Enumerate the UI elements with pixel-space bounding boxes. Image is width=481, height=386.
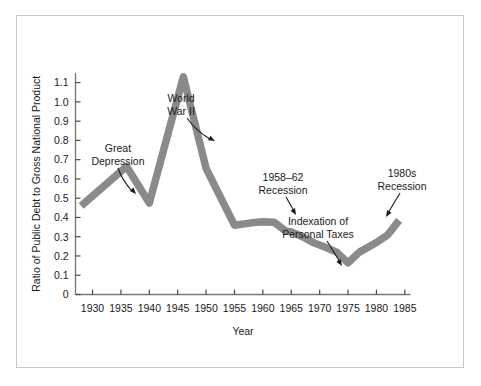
x-axis-tick-label: 1985 — [393, 302, 417, 314]
annotation-label: 1958–62Recession — [258, 171, 307, 196]
annotation-label: Indexation ofPersonal Taxes — [282, 215, 354, 240]
x-axis-title: Year — [232, 325, 254, 337]
annotation-label: GreatDepression — [91, 142, 144, 167]
x-axis-tick-label: 1980 — [365, 302, 389, 314]
annotation-label: 1980sRecession — [377, 167, 426, 192]
y-axis-tick-label: 0.4 — [54, 211, 69, 223]
x-axis-tick-label: 1965 — [280, 302, 304, 314]
x-axis-tick-label: 1940 — [138, 302, 162, 314]
y-axis-title: Ratio of Public Debt to Gross National P… — [30, 76, 42, 292]
chart-figure: 00.10.20.30.40.50.60.70.80.91.01.1193019… — [0, 0, 481, 386]
y-axis-tick-label: 0.3 — [54, 231, 69, 243]
x-axis-tick-label: 1945 — [166, 302, 190, 314]
annotation-recession-1980s: 1980sRecession — [377, 167, 426, 217]
y-axis-tick-label: 0 — [63, 288, 69, 300]
y-axis-tick-label: 0.8 — [54, 134, 69, 146]
x-axis-tick-label: 1955 — [223, 302, 247, 314]
annotation-leader-line — [388, 193, 400, 213]
y-axis-tick-label: 1.0 — [54, 96, 69, 108]
annotation-recession-1958-62: 1958–62Recession — [258, 171, 307, 215]
y-axis-tick-label: 0.7 — [54, 153, 69, 165]
x-axis-tick-label: 1960 — [251, 302, 275, 314]
x-axis-tick-label: 1970 — [308, 302, 332, 314]
y-axis-tick-label: 0.2 — [54, 250, 69, 262]
y-axis-tick-label: 0.6 — [54, 173, 69, 185]
x-axis-tick-label: 1935 — [109, 302, 133, 314]
annotation-arrowhead — [386, 210, 392, 217]
annotation-arrowhead — [208, 136, 215, 141]
x-axis-tick-label: 1950 — [194, 302, 218, 314]
y-axis-tick-label: 0.1 — [54, 269, 69, 281]
y-axis-tick-label: 0.5 — [54, 192, 69, 204]
y-axis-tick-label: 1.1 — [54, 76, 69, 88]
annotation-label: WorldWar II — [167, 92, 195, 117]
annotation-leader-line — [286, 197, 294, 211]
x-axis-tick-label: 1930 — [81, 302, 105, 314]
annotation-arrowhead — [130, 187, 136, 194]
annotation-arrowhead — [291, 208, 297, 215]
chart-plot-area: 00.10.20.30.40.50.60.70.80.91.01.1193019… — [0, 0, 481, 386]
x-axis-tick-label: 1975 — [336, 302, 360, 314]
y-axis-tick-label: 0.9 — [54, 115, 69, 127]
